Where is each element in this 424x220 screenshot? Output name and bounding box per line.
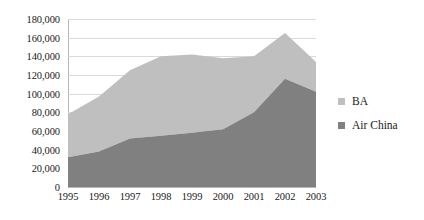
y-axis-tick-label: 40,000 <box>32 144 60 155</box>
x-axis-tick-label: 2001 <box>244 191 265 203</box>
y-axis-tick-label: 20,000 <box>32 163 60 174</box>
y-axis: 180,000160,000140,000120,000100,00080,00… <box>0 0 66 220</box>
plot-area <box>68 19 316 187</box>
x-axis-tick-label: 1998 <box>151 191 172 203</box>
legend-swatch-icon <box>338 122 345 129</box>
legend-label: BA <box>352 95 368 108</box>
axis-baseline <box>68 187 316 188</box>
x-axis-tick-label: 2000 <box>213 191 234 203</box>
y-axis-tick-label: 80,000 <box>32 107 60 118</box>
x-axis-tick-label: 1999 <box>182 191 203 203</box>
legend-item[interactable]: Air China <box>338 116 422 134</box>
y-axis-tick-label: 120,000 <box>27 70 60 81</box>
y-axis-tick-label: 180,000 <box>27 14 60 25</box>
legend-label: Air China <box>352 119 398 132</box>
y-axis-tick-label: 100,000 <box>27 88 60 99</box>
area-chart: 180,000160,000140,000120,000100,00080,00… <box>0 0 424 220</box>
x-axis-tick-label: 1995 <box>58 191 79 203</box>
chart-legend: BAAir China <box>338 92 422 140</box>
y-axis-tick-label: 160,000 <box>27 32 60 43</box>
x-axis-tick-label: 1996 <box>89 191 110 203</box>
x-axis: 199519961997199819992000200120022003 <box>68 191 316 211</box>
x-axis-tick-label: 1997 <box>120 191 141 203</box>
y-axis-tick-label: 140,000 <box>27 51 60 62</box>
x-axis-tick-label: 2003 <box>306 191 327 203</box>
legend-item[interactable]: BA <box>338 92 422 110</box>
area-series-group <box>68 19 316 187</box>
x-axis-tick-label: 2002 <box>275 191 296 203</box>
legend-swatch-icon <box>338 98 345 105</box>
y-axis-tick-label: 60,000 <box>32 126 60 137</box>
